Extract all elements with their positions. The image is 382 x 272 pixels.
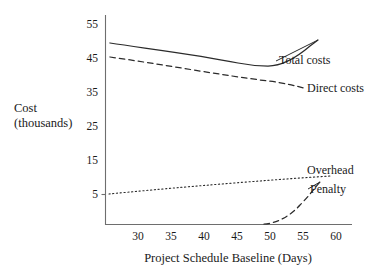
- series-label-total-costs: Total costs: [279, 53, 331, 67]
- series-line-direct-costs: [110, 57, 304, 88]
- y-tick-label-25: 25: [87, 120, 99, 132]
- y-tick-label-45: 45: [87, 52, 99, 64]
- y-tick-label-55: 55: [87, 18, 99, 30]
- x-tick-label-45: 45: [231, 230, 243, 242]
- y-axis-title-line2: (thousands): [14, 116, 72, 130]
- x-tick-label-40: 40: [198, 230, 210, 242]
- x-tick-label-50: 50: [264, 230, 276, 242]
- y-axis-title-line1: Cost: [14, 101, 37, 115]
- chart-plot-area: 55 45 35 25 15 5 30 35 40 45 50 55 60 Co…: [0, 0, 382, 272]
- y-tick-label-15: 15: [87, 154, 99, 166]
- x-tick-label-30: 30: [132, 230, 144, 242]
- x-tick-label-60: 60: [330, 230, 342, 242]
- x-axis-title: Project Schedule Baseline (Days): [144, 251, 312, 265]
- x-tick-label-35: 35: [165, 230, 177, 242]
- series-label-direct-costs: Direct costs: [307, 81, 364, 95]
- y-tick-label-35: 35: [87, 86, 99, 98]
- series-line-overhead: [109, 176, 330, 194]
- y-tick-label-5: 5: [92, 188, 98, 200]
- x-tick-label-55: 55: [297, 230, 309, 242]
- cost-vs-schedule-chart: 55 45 35 25 15 5 30 35 40 45 50 55 60 Co…: [0, 0, 382, 272]
- series-label-penalty: Penalty: [310, 182, 346, 196]
- series-label-overhead: Overhead: [307, 163, 354, 177]
